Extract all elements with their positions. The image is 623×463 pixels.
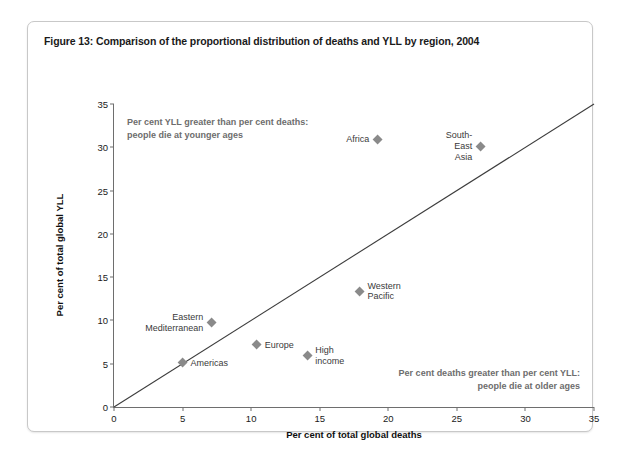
x-tick-label: 5 bbox=[180, 413, 185, 424]
x-tickmark bbox=[319, 407, 320, 411]
annotation-lower-right: Per cent deaths greater than per cent YL… bbox=[399, 367, 580, 393]
data-point-label: High income bbox=[315, 345, 344, 366]
x-tick-label: 30 bbox=[520, 413, 531, 424]
data-point-label: Europe bbox=[265, 339, 294, 350]
x-tick-label: 10 bbox=[246, 413, 257, 424]
y-tick-label: 0 bbox=[103, 402, 108, 413]
plot-area: 05101520253035 05101520253035 AfricaSout… bbox=[113, 104, 594, 408]
x-tickmark bbox=[388, 407, 389, 411]
y-tick-label: 35 bbox=[97, 99, 108, 110]
y-tick-label: 30 bbox=[97, 142, 108, 153]
x-tickmark bbox=[182, 407, 183, 411]
y-tickmark bbox=[110, 277, 114, 278]
data-point-label: Eastern Mediterranean bbox=[145, 312, 203, 333]
x-tick-label: 35 bbox=[589, 413, 600, 424]
y-tick-label: 10 bbox=[97, 315, 108, 326]
y-tick-label: 20 bbox=[97, 228, 108, 239]
annotation-upper-left: Per cent YLL greater than per cent death… bbox=[127, 116, 308, 142]
y-tick-label: 5 bbox=[103, 358, 108, 369]
data-point-label: Western Pacific bbox=[367, 281, 400, 302]
y-tickmark bbox=[110, 147, 114, 148]
y-tickmark bbox=[110, 104, 114, 105]
figure-card: Figure 13: Comparison of the proportiona… bbox=[27, 21, 593, 432]
x-tickmark bbox=[251, 407, 252, 411]
y-tickmark bbox=[110, 320, 114, 321]
y-tickmark bbox=[110, 363, 114, 364]
y-tick-label: 15 bbox=[97, 272, 108, 283]
x-axis-title: Per cent of total global deaths bbox=[286, 429, 422, 440]
x-tickmark bbox=[456, 407, 457, 411]
data-point-label: Africa bbox=[346, 134, 369, 145]
x-tick-label: 15 bbox=[314, 413, 325, 424]
x-tick-label: 0 bbox=[111, 413, 116, 424]
y-tickmark bbox=[110, 190, 114, 191]
y-tickmark bbox=[110, 233, 114, 234]
x-tickmark bbox=[594, 407, 595, 411]
data-point-label: South-East Asia bbox=[446, 130, 473, 162]
y-tick-label: 25 bbox=[97, 185, 108, 196]
x-tick-label: 25 bbox=[452, 413, 463, 424]
x-tickmark bbox=[525, 407, 526, 411]
figure-title: Figure 13: Comparison of the proportiona… bbox=[44, 35, 479, 47]
y-axis-title: Per cent of total global YLL bbox=[54, 194, 65, 317]
data-point-label: Americas bbox=[191, 358, 229, 369]
x-tickmark bbox=[114, 407, 115, 411]
x-tick-label: 20 bbox=[383, 413, 394, 424]
